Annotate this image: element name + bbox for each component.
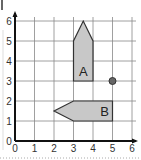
x-tick-label: 6 [129, 143, 135, 154]
x-tick-label: 2 [51, 143, 57, 154]
x-tick-label: 3 [71, 143, 77, 154]
y-tick-label: 2 [6, 96, 12, 107]
y-tick-label: 0 [6, 136, 12, 147]
x-tick-label: 4 [90, 143, 96, 154]
y-tick-label: 1 [6, 116, 12, 127]
shape-a-label: A [79, 64, 88, 79]
shapes-layer: AB [54, 21, 113, 121]
y-tick-label: 4 [6, 56, 12, 67]
y-tick-label: 3 [6, 76, 12, 87]
tick-labels: 01234560123456 [6, 16, 135, 155]
y-tick-label: 6 [6, 16, 12, 27]
coordinate-grid-diagram: AB 01234560123456 [0, 0, 141, 160]
x-tick-label: 0 [12, 143, 18, 154]
y-tick-label: 5 [6, 36, 12, 47]
x-tick-label: 5 [110, 143, 116, 154]
point-layer [109, 78, 116, 85]
shape-b-label: B [100, 104, 109, 119]
y-axis-arrow-icon [13, 11, 18, 17]
x-tick-label: 1 [32, 143, 38, 154]
point-marker [109, 78, 116, 85]
